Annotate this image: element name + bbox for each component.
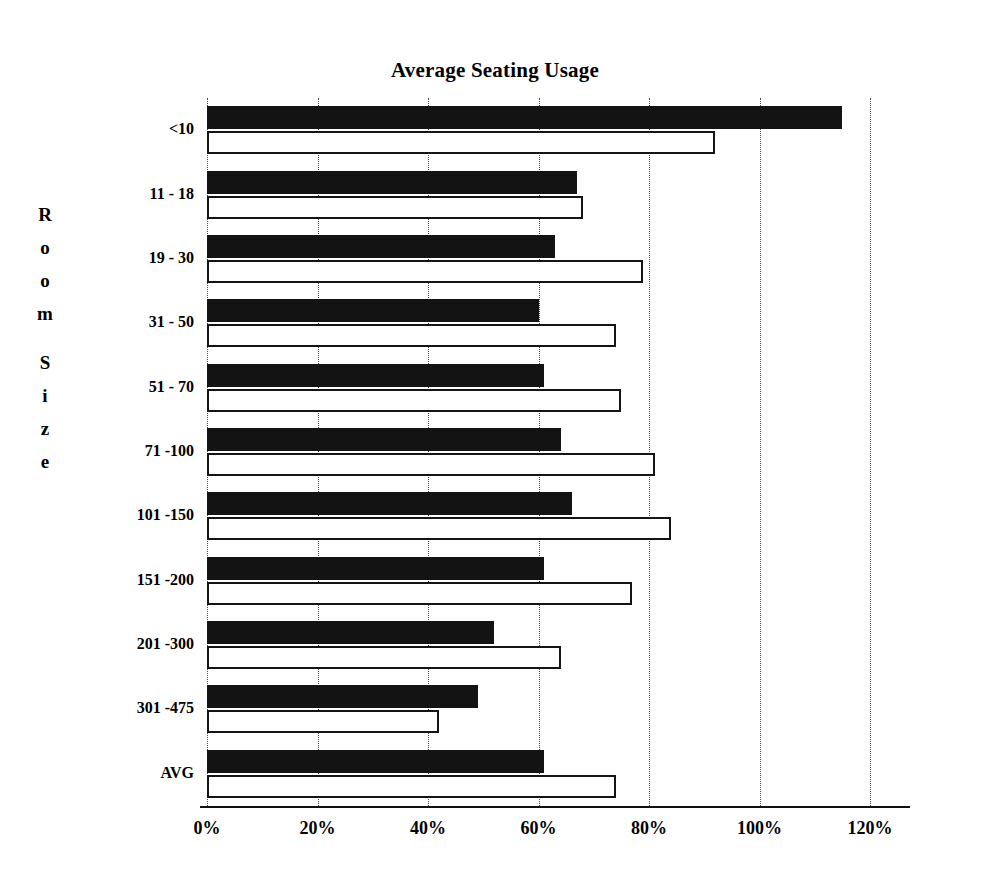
x-axis-tick-label: 0% [194,818,221,839]
bar-series-2 [207,582,632,605]
bar-series-1 [207,364,544,387]
bar-series-2 [207,196,583,219]
x-axis-line [200,806,910,808]
chart-container: Average Seating Usage RoomSize <1011 - 1… [0,0,990,888]
bar-group [207,613,870,677]
y-axis-tick-label: <10 [44,120,194,138]
bar-group [207,162,870,226]
bar-group [207,677,870,741]
bar-series-1 [207,171,577,194]
y-axis-tick-label: 71 -100 [44,442,194,460]
bar-group [207,355,870,419]
y-axis-tick-label: 11 - 18 [44,185,194,203]
bar-series-2 [207,775,616,798]
y-axis-tick-label: 201 -300 [44,635,194,653]
bar-group [207,227,870,291]
y-axis-tick-label: 19 - 30 [44,249,194,267]
bar-series-1 [207,492,572,515]
gridline [870,98,871,806]
bar-series-2 [207,710,439,733]
x-axis-tick-label: 60% [521,818,557,839]
bar-group [207,420,870,484]
bar-series-2 [207,453,655,476]
bar-series-1 [207,235,555,258]
y-axis-tick-label: 31 - 50 [44,313,194,331]
y-axis-tick-label: 51 - 70 [44,378,194,396]
x-axis-tick-label: 80% [631,818,667,839]
y-axis-tick-label: AVG [44,764,194,782]
bar-group [207,291,870,355]
y-axis-tick-labels: <1011 - 1819 - 3031 - 5051 - 7071 -10010… [42,98,194,806]
bar-series-1 [207,621,494,644]
bar-series-2 [207,389,621,412]
bar-series-2 [207,324,616,347]
bar-series-1 [207,106,842,129]
bar-series-1 [207,299,539,322]
x-axis-tick-label: 100% [737,818,782,839]
bar-series-2 [207,517,671,540]
bar-series-2 [207,260,643,283]
bar-series-1 [207,685,478,708]
x-axis-tick-label: 20% [300,818,336,839]
bar-series-1 [207,750,544,773]
bar-series-1 [207,557,544,580]
bar-group [207,98,870,162]
bar-group [207,742,870,806]
bar-group [207,484,870,548]
x-axis-tick-label: 120% [848,818,893,839]
scan-bleedthrough [290,28,294,45]
y-axis-tick-label: 101 -150 [44,506,194,524]
y-axis-tick-label: 301 -475 [44,699,194,717]
x-axis-tick-label: 40% [410,818,446,839]
bar-series-2 [207,646,561,669]
bar-group [207,549,870,613]
x-axis-tick-labels: 0%20%40%60%80%100%120% [207,818,870,858]
plot-area [207,98,870,806]
bar-series-1 [207,428,561,451]
chart-title: Average Seating Usage [0,58,990,83]
bar-series-2 [207,131,715,154]
y-axis-tick-label: 151 -200 [44,571,194,589]
